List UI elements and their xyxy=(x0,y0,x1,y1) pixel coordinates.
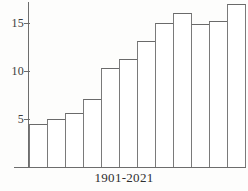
bar xyxy=(29,124,48,167)
bar-chart: 15105 1901-2021 xyxy=(0,0,248,191)
bar xyxy=(137,41,156,167)
bar xyxy=(173,13,192,167)
bar xyxy=(119,59,138,167)
x-axis-label: 1901-2021 xyxy=(0,170,248,186)
bar xyxy=(47,119,66,167)
bar-series xyxy=(0,0,248,191)
bar xyxy=(101,68,120,167)
bar xyxy=(227,4,246,167)
bar xyxy=(83,99,102,167)
bar xyxy=(191,24,210,167)
bar xyxy=(65,113,84,167)
bar xyxy=(209,21,228,167)
bar xyxy=(155,23,174,167)
